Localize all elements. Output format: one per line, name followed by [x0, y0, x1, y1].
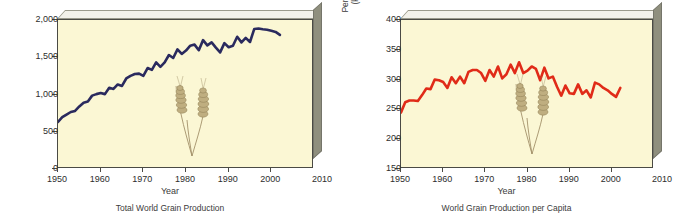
- x-tick-mark: [484, 168, 485, 172]
- box-top-face-right: [400, 10, 661, 19]
- y-tick-label: 400: [386, 14, 401, 24]
- x-tick-label: 1950: [47, 174, 67, 184]
- x-tick-label: 1990: [559, 174, 579, 184]
- y-tick-label: 150: [386, 163, 401, 173]
- x-tick-mark: [100, 168, 101, 172]
- x-tick-mark: [228, 168, 229, 172]
- x-tick-mark: [400, 168, 401, 172]
- box-side-face-right: [653, 2, 662, 159]
- x-tick-mark: [270, 168, 271, 172]
- plot-3d-box-left: 05001,0001,5002,000 19501960197019801990…: [57, 10, 322, 168]
- y-tick-label: 200: [386, 133, 401, 143]
- figure-container: Grain production (millions of tons): [0, 0, 673, 216]
- y-tick-label: 300: [386, 74, 401, 84]
- chart-caption-left: Total World Grain Production: [0, 203, 340, 213]
- wheat-illustration-icon: [162, 72, 222, 158]
- y-tick-label: 1,500: [35, 51, 58, 61]
- box-side-face-left: [313, 2, 322, 159]
- y-axis-title-left: Grain production (millions of tons): [0, 0, 28, 38]
- y-tick-label: 500: [43, 126, 58, 136]
- x-tick-mark: [569, 168, 570, 172]
- x-axis-title-left: Year: [0, 186, 340, 196]
- x-tick-mark: [527, 168, 528, 172]
- plot-area-left: 05001,0001,5002,000 19501960197019801990…: [57, 10, 322, 168]
- x-tick-label: 1980: [516, 174, 536, 184]
- x-tick-mark: [142, 168, 143, 172]
- x-tick-label: 1960: [90, 174, 110, 184]
- chart-block-right: Per capita grain production (kilograms p…: [340, 0, 673, 216]
- x-tick-mark: [57, 168, 58, 172]
- x-tick-mark: [185, 168, 186, 172]
- chart-panel-per-capita-grain-production: Per capita grain production (kilograms p…: [340, 0, 673, 216]
- y-tick-label: 350: [386, 44, 401, 54]
- x-tick-label: 2000: [260, 174, 280, 184]
- chart-panel-total-grain-production: Grain production (millions of tons): [0, 0, 340, 216]
- x-tick-label: 1950: [390, 174, 410, 184]
- x-tick-label: 2000: [601, 174, 621, 184]
- x-tick-label: 1970: [132, 174, 152, 184]
- chart-caption-right: World Grain Production per Capita: [340, 203, 673, 213]
- x-tick-mark: [611, 168, 612, 172]
- x-tick-label: 1990: [218, 174, 238, 184]
- x-tick-label: 1960: [432, 174, 452, 184]
- chart-block-left: Grain production (millions of tons): [0, 0, 340, 216]
- box-top-face-left: [57, 10, 321, 19]
- x-axis-title-right: Year: [340, 186, 673, 196]
- x-tick-label: 1980: [175, 174, 195, 184]
- y-tick-label: 1,000: [35, 89, 58, 99]
- y-axis-title-right: Per capita grain production (kilograms p…: [340, 0, 368, 38]
- plot-3d-box-right: 150200250300350400 195019601970198019902…: [400, 10, 662, 168]
- x-tick-label: 2010: [652, 174, 672, 184]
- wheat-illustration-icon: [502, 68, 562, 158]
- x-tick-mark: [442, 168, 443, 172]
- plot-area-right: 150200250300350400 195019601970198019902…: [400, 10, 662, 168]
- y-tick-label: 2,000: [35, 14, 58, 24]
- x-tick-label: 2010: [312, 174, 332, 184]
- y-tick-label: 250: [386, 103, 401, 113]
- x-tick-label: 1970: [474, 174, 494, 184]
